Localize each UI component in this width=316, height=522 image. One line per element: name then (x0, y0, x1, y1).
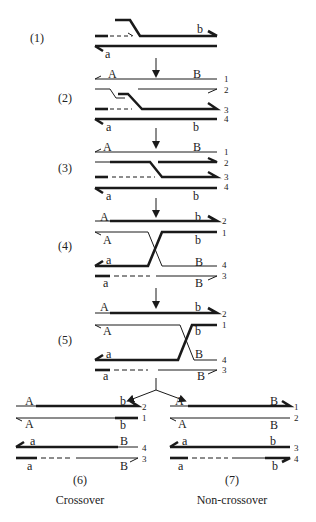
allele-label: a (27, 459, 33, 473)
allele-label: A (100, 300, 109, 314)
allele-label: A (108, 67, 117, 81)
allele-label: B (270, 394, 278, 408)
diagram-labels: (1)(2)(3)(4)(5)baABabABabAbAbaBaBAbAbaBa… (25, 22, 299, 507)
allele-label: B (197, 369, 205, 383)
strand-number: 4 (224, 114, 229, 124)
allele-label: B (270, 418, 278, 432)
step-label-5: (5) (58, 333, 72, 347)
strand-number: 2 (224, 85, 229, 95)
allele-label: b (193, 189, 199, 203)
allele-label: A (25, 417, 34, 431)
allele-label: a (103, 276, 109, 290)
strand-number: 4 (222, 260, 227, 270)
outcome-caption: Crossover (56, 493, 105, 507)
allele-label: B (120, 434, 128, 448)
allele-label: a (178, 459, 184, 473)
strand-number: 1 (224, 74, 229, 84)
step-label-1: (1) (30, 31, 44, 45)
diagram-canvas: (1)(2)(3)(4)(5)baABabABabAbAbaBaBAbAbaBa… (0, 0, 316, 522)
recombination-diagram: (1)(2)(3)(4)(5)baABabABabAbAbaBaBAbAbaBa… (0, 0, 316, 522)
allele-label: B (195, 276, 203, 290)
outcome-caption: Non-crossover (197, 493, 268, 507)
allele-label: b (195, 324, 201, 338)
step-label-4: (4) (58, 239, 72, 253)
allele-label: A (178, 417, 187, 431)
allele-label: b (272, 459, 278, 473)
strand-number: 2 (224, 158, 229, 168)
allele-label: b (120, 418, 126, 432)
strand-number: 2 (222, 309, 227, 319)
strand-number: 3 (222, 271, 227, 281)
allele-label: A (103, 324, 112, 338)
allele-label: a (106, 120, 112, 134)
strand-number: 4 (294, 454, 299, 464)
step-3-strands (95, 149, 217, 193)
strand-number: 4 (142, 443, 147, 453)
allele-label: A (103, 233, 112, 247)
strand-number: 3 (142, 454, 147, 464)
step-4-strands (95, 216, 217, 280)
allele-label: a (103, 369, 109, 383)
allele-label: B (195, 255, 203, 269)
strand-number: 3 (224, 172, 229, 182)
allele-label: a (106, 253, 112, 267)
strand-number: 2 (142, 402, 147, 412)
allele-label: b (197, 22, 203, 36)
allele-label: B (195, 347, 203, 361)
strand-number: 1 (222, 228, 227, 238)
strand-number: 2 (222, 216, 227, 226)
allele-label: a (182, 434, 188, 448)
strand-number: 4 (224, 182, 229, 192)
strand-number: 2 (294, 413, 299, 423)
outcome-number: (6) (73, 473, 87, 487)
allele-label: b (195, 300, 201, 314)
allele-label: b (195, 233, 201, 247)
step-label-2: (2) (58, 91, 72, 105)
allele-label: B (193, 67, 201, 81)
allele-label: a (30, 434, 36, 448)
strand-number: 1 (222, 320, 227, 330)
allele-label: b (120, 394, 126, 408)
strand-number: 3 (294, 443, 299, 453)
allele-label: a (105, 47, 111, 61)
step-label-3: (3) (58, 161, 72, 175)
strand-number: 4 (222, 355, 227, 365)
allele-label: b (270, 434, 276, 448)
strand-number: 1 (224, 147, 229, 157)
allele-label: A (100, 210, 109, 224)
strand-number: 1 (142, 413, 147, 423)
allele-label: A (103, 140, 112, 154)
allele-label: b (193, 120, 199, 134)
allele-label: A (175, 394, 184, 408)
strand-number: 1 (294, 402, 299, 412)
step-2-strands (95, 76, 217, 124)
allele-label: B (193, 140, 201, 154)
allele-label: a (106, 189, 112, 203)
allele-label: B (120, 459, 128, 473)
step-5-strands (95, 308, 217, 374)
allele-label: b (195, 210, 201, 224)
allele-label: A (25, 394, 34, 408)
allele-label: a (106, 347, 112, 361)
strand-number: 3 (222, 365, 227, 375)
outcome-number: (7) (225, 473, 239, 487)
